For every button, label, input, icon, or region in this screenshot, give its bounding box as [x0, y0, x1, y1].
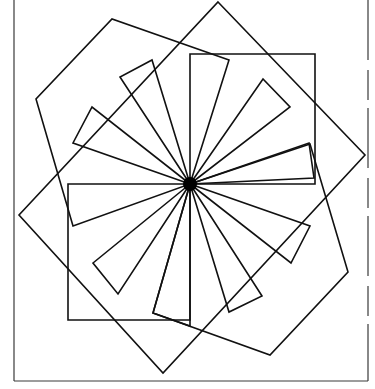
blade-sse — [190, 184, 262, 312]
axis-rect-top-right — [190, 54, 315, 184]
diagram-canvas — [0, 0, 375, 389]
outer-square-b — [36, 19, 229, 226]
blade-wsw — [153, 184, 190, 326]
blade-ne — [190, 79, 290, 184]
axis-rect-bottom-left — [68, 184, 190, 320]
pinwheel-figure — [0, 0, 375, 389]
blade-nw — [73, 107, 190, 184]
blade-ssw — [93, 184, 190, 294]
blade-nnw — [120, 60, 190, 184]
blade-ese — [190, 184, 310, 263]
center-hub — [183, 177, 197, 191]
